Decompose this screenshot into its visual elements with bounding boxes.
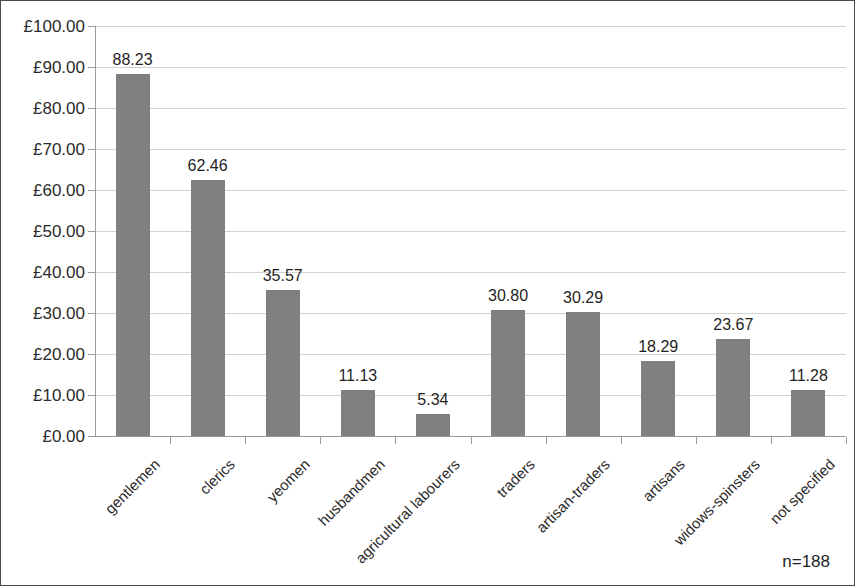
x-axis-tick <box>320 437 321 444</box>
y-axis-tick <box>88 436 95 437</box>
x-axis-tick <box>546 437 547 444</box>
y-axis-tick <box>88 313 95 314</box>
x-axis-tick <box>621 437 622 444</box>
y-axis-tick <box>88 149 95 150</box>
y-axis-tick <box>88 67 95 68</box>
sample-size-annotation: n=188 <box>782 553 830 570</box>
x-axis-tick <box>170 437 171 444</box>
y-axis-tick <box>88 354 95 355</box>
y-axis-tick <box>88 395 95 396</box>
x-axis-tick <box>245 437 246 444</box>
bar-chart: £0.00£10.00£20.00£30.00£40.00£50.00£60.0… <box>0 0 855 586</box>
y-axis-tick <box>88 231 95 232</box>
x-axis-labels: gentlemenclericsyeomenhusbandmenagricult… <box>1 1 855 586</box>
y-axis-tick <box>88 26 95 27</box>
x-axis-tick <box>471 437 472 444</box>
x-axis-tick <box>846 437 847 444</box>
y-axis-tick <box>88 272 95 273</box>
x-axis-tick <box>395 437 396 444</box>
y-axis-tick <box>88 108 95 109</box>
x-axis-tick <box>696 437 697 444</box>
x-axis-tick <box>771 437 772 444</box>
y-axis-tick <box>88 190 95 191</box>
